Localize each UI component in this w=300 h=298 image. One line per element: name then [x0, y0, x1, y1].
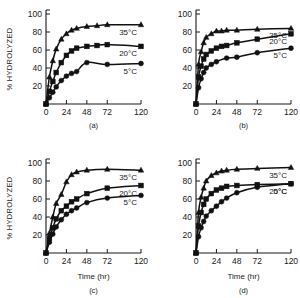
y-tick-label: 60	[183, 194, 193, 204]
data-point	[199, 210, 204, 215]
data-point	[199, 64, 204, 69]
x-tick-label: 72	[253, 256, 263, 266]
data-point	[201, 70, 206, 75]
data-point	[105, 62, 110, 67]
data-point	[59, 60, 64, 65]
data-point	[201, 57, 206, 62]
data-point	[74, 206, 79, 211]
panel-c-plot: 20406080100024487212035°C20°C5°C% HYDROL…	[0, 149, 150, 298]
panel-d: 20406080100024487212035°C20°C5°CTime (hr…	[150, 149, 300, 298]
data-point	[59, 217, 64, 222]
x-tick-label: 120	[284, 107, 298, 117]
data-point	[53, 46, 58, 51]
data-point	[234, 190, 239, 195]
data-point	[50, 58, 55, 63]
y-tick-label: 80	[33, 176, 43, 186]
x-axis-title: Time (hr)	[227, 272, 259, 281]
data-point	[199, 76, 204, 81]
y-tick-label: 100	[28, 9, 42, 19]
panel-c: 20406080100024487212035°C20°C5°C% HYDROL…	[0, 149, 150, 298]
y-tick-label: 100	[178, 9, 192, 19]
data-point	[74, 69, 79, 74]
series-label-5C: 5°C	[274, 51, 288, 60]
data-point	[201, 219, 206, 224]
data-point	[289, 46, 294, 51]
data-point	[54, 84, 59, 89]
series-label-20C: 20°C	[119, 189, 137, 198]
data-point	[204, 214, 209, 219]
y-tick-label: 20	[183, 230, 193, 240]
x-tick-label: 120	[134, 107, 148, 117]
data-point	[209, 208, 214, 213]
data-point	[50, 90, 55, 95]
y-axis-title: % HYDROLYZED	[5, 27, 14, 90]
data-point	[255, 185, 260, 190]
data-point	[209, 62, 214, 67]
data-point	[219, 199, 224, 204]
data-point	[219, 186, 224, 191]
data-point	[255, 37, 260, 42]
data-point	[204, 197, 209, 202]
data-point	[64, 74, 69, 79]
x-tick-label: 72	[103, 256, 113, 266]
panel-caption: (c)	[89, 286, 98, 295]
y-tick-label: 60	[183, 45, 193, 55]
x-axis-title: Time (hr)	[77, 272, 109, 281]
data-point	[74, 197, 79, 202]
y-tick-label: 20	[33, 230, 43, 240]
x-tick-label: 120	[134, 256, 148, 266]
data-point	[224, 196, 229, 201]
data-point	[69, 49, 74, 54]
data-point	[54, 224, 59, 229]
data-point	[84, 191, 89, 196]
data-point	[224, 184, 229, 189]
x-tick-label: 72	[253, 107, 263, 117]
data-point	[194, 251, 199, 256]
data-point	[234, 55, 239, 60]
data-point	[47, 95, 52, 100]
data-point	[199, 225, 204, 230]
data-point	[196, 234, 201, 239]
x-tick-label: 72	[103, 107, 113, 117]
x-tick-label: 0	[194, 107, 199, 117]
y-tick-label: 20	[183, 81, 193, 91]
data-point	[84, 44, 89, 49]
x-tick-label: 24	[212, 256, 222, 266]
x-tick-label: 24	[212, 107, 222, 117]
data-point	[139, 193, 144, 198]
data-point	[214, 59, 219, 64]
data-point	[54, 70, 59, 75]
y-tick-label: 60	[33, 194, 43, 204]
data-point	[69, 208, 74, 213]
panel-b-plot: 20406080100024487212035°C20°C5°C(b)	[150, 0, 300, 149]
x-tick-label: 24	[62, 107, 72, 117]
series-label-20C: 20°C	[119, 49, 137, 58]
series-label-35C: 35°C	[119, 28, 137, 37]
y-tick-label: 40	[33, 212, 43, 222]
data-point	[139, 44, 144, 49]
data-point	[47, 240, 52, 245]
series-label-35C: 35°C	[119, 173, 137, 182]
data-point	[95, 43, 100, 48]
x-tick-label: 48	[82, 107, 92, 117]
data-point	[139, 61, 144, 66]
data-point	[69, 71, 74, 76]
data-point	[255, 50, 260, 55]
panel-b: 20406080100024487212035°C20°C5°C(b)	[150, 0, 300, 149]
series-label-5C: 5°C	[124, 67, 138, 76]
y-tick-label: 20	[33, 81, 43, 91]
data-point	[59, 208, 64, 213]
panel-caption: (b)	[239, 121, 249, 130]
data-point	[50, 232, 55, 237]
x-tick-label: 48	[232, 256, 242, 266]
panel-a: 20406080100024487212035°C20°C5°C% HYDROL…	[0, 0, 150, 149]
y-axis-title: % HYDROLYZED	[5, 176, 14, 239]
data-point	[209, 191, 214, 196]
data-point	[198, 194, 203, 199]
y-tick-label: 80	[183, 176, 193, 186]
data-point	[105, 42, 110, 47]
data-point	[74, 46, 79, 51]
series-label-5C: 5°C	[124, 198, 138, 207]
x-tick-label: 48	[82, 256, 92, 266]
x-tick-label: 0	[44, 256, 49, 266]
